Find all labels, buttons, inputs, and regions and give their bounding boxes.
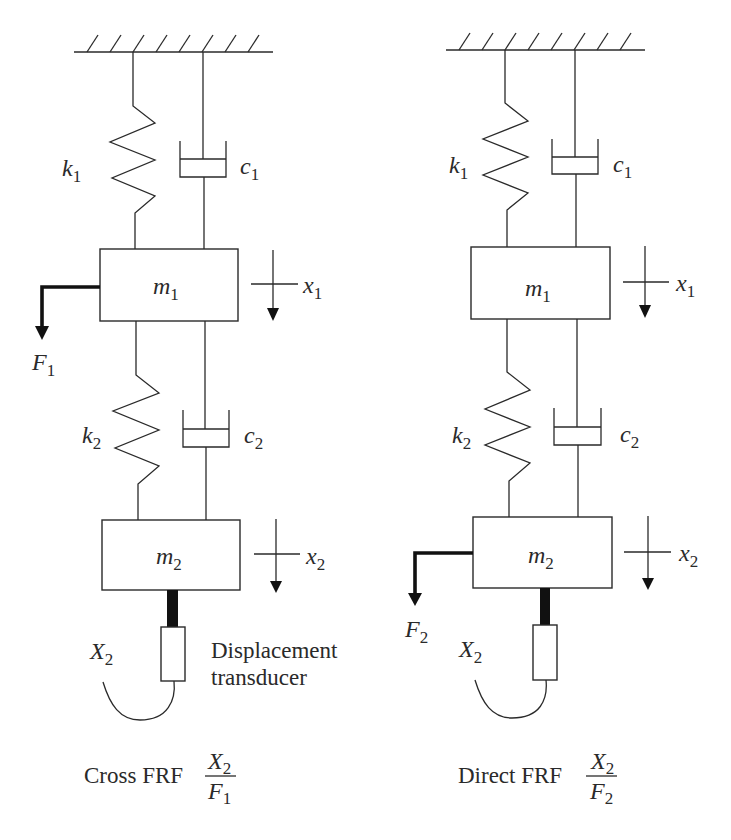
frf-diagram: k1 c1 m1 F1 x1 k2 c2 m2: [0, 0, 731, 840]
damper-c1-right: [552, 50, 598, 247]
svg-text:F2: F2: [589, 778, 613, 808]
label-c2-right: c2: [620, 421, 639, 452]
label-X2-right: X2: [458, 636, 482, 667]
damper-c2-right: [554, 319, 601, 517]
label-F1: F1: [31, 349, 55, 380]
label-k2-right: k2: [452, 422, 471, 453]
label-c1-left: c1: [240, 153, 259, 184]
displacement-transducer-right: [475, 588, 557, 718]
right-panel-direct-frf: k1 c1 m1 x1 k2 c2 m2 F2: [404, 33, 698, 808]
spring-k1-left: [110, 52, 155, 249]
label-x2-left: x2: [305, 543, 325, 574]
transducer-label-line2: transducer: [211, 665, 307, 690]
spring-k2-right: [485, 319, 530, 517]
displacement-arrow-x1-right: [623, 246, 669, 318]
damper-c1-left: [180, 52, 226, 249]
label-c1-right: c1: [613, 151, 632, 182]
fixed-ceiling-right: [446, 33, 645, 50]
svg-text:F1: F1: [207, 778, 231, 808]
caption-direct-frf: Direct FRF: [458, 763, 562, 788]
label-k2-left: k2: [82, 422, 101, 453]
force-arrow-f1: [35, 287, 100, 340]
fraction-x2-over-f1: X2 F1: [205, 748, 236, 808]
label-X2-left: X2: [89, 638, 113, 669]
spring-k2-left: [113, 321, 159, 520]
label-x2-right: x2: [678, 540, 698, 571]
displacement-arrow-x1-left: [251, 250, 298, 321]
label-x1-left: x1: [302, 272, 322, 303]
fraction-x2-over-f2: X2 F2: [586, 748, 617, 808]
displacement-transducer-left: [103, 590, 185, 720]
label-k1-left: k1: [62, 155, 81, 186]
displacement-arrow-x2-right: [624, 516, 671, 590]
force-arrow-f2: [408, 553, 473, 606]
svg-text:X2: X2: [207, 748, 231, 778]
label-F2: F2: [404, 616, 428, 647]
displacement-arrow-x2-left: [254, 519, 300, 593]
label-k1-right: k1: [449, 152, 468, 183]
label-x1-right: x1: [675, 270, 695, 301]
left-panel-cross-frf: k1 c1 m1 F1 x1 k2 c2 m2: [31, 35, 338, 808]
svg-text:X2: X2: [590, 748, 614, 778]
transducer-label-line1: Displacement: [211, 638, 338, 663]
damper-c2-left: [183, 321, 229, 520]
caption-cross-frf: Cross FRF: [84, 763, 183, 788]
fixed-ceiling-left: [74, 35, 273, 52]
spring-k1-right: [483, 50, 528, 247]
label-c2-left: c2: [244, 422, 263, 453]
